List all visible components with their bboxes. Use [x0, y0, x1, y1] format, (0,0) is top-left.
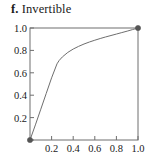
- plot-frame: [30, 28, 138, 140]
- plot-area: 1.0 0.8 0.6 0.4 0.2 0.2 0.4 0.6 0.8 1.0: [0, 0, 152, 166]
- x-tick-label-1.0: 1.0: [131, 143, 144, 154]
- x-tick-label-0.2: 0.2: [45, 143, 58, 154]
- origin-endpoint: [27, 137, 32, 142]
- y-tick-label-1.0: 1.0: [14, 23, 27, 34]
- x-tick-label-0.8: 0.8: [110, 143, 123, 154]
- y-tick-label-0.6: 0.6: [14, 68, 27, 79]
- chart-figure: f. Invertible 1.0 0.8 0.6 0.4 0.2 0.2: [0, 0, 152, 166]
- upper-right-endpoint: [135, 25, 140, 30]
- x-tick-label-0.4: 0.4: [67, 143, 81, 154]
- x-tick-label-0.6: 0.6: [88, 143, 101, 154]
- y-tick-label-0.8: 0.8: [14, 45, 27, 56]
- y-tick-label-0.4: 0.4: [14, 90, 28, 101]
- y-tick-label-0.2: 0.2: [14, 113, 27, 124]
